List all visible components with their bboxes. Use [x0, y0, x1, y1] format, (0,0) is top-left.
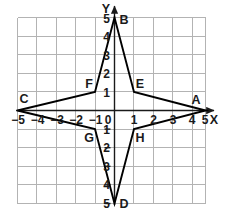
y-tick-neg1: 1 [103, 123, 110, 137]
point-label-A: A [191, 93, 200, 107]
y-tick-neg2: 2 [103, 141, 110, 155]
x-tick-neg1: −1 [89, 113, 103, 127]
x-tick-3: 3 [170, 113, 177, 127]
x-tick-2: 2 [150, 113, 157, 127]
y-tick-neg3: 3 [103, 160, 110, 174]
point-label-D: D [119, 197, 128, 211]
x-tick-neg3: −3 [50, 113, 64, 127]
point-label-H: H [135, 131, 144, 145]
x-tick-5: 5 [202, 113, 209, 127]
y-tick-2: 2 [103, 67, 110, 81]
point-label-B: B [119, 13, 128, 27]
vertex-labels: A B C D E F G H [19, 13, 200, 211]
coordinate-plane-svg: −5 −4 −3 −2 −1 0 1 2 3 4 5 5 4 3 2 1 1 2… [0, 0, 227, 216]
coordinate-plane-figure: −5 −4 −3 −2 −1 0 1 2 3 4 5 5 4 3 2 1 1 2… [0, 0, 227, 216]
point-label-C: C [19, 92, 28, 106]
y-tick-1: 1 [103, 86, 110, 100]
y-tick-neg5: 5 [103, 197, 110, 211]
y-axis-label: Y [102, 2, 111, 16]
x-tick-4: 4 [189, 113, 196, 127]
x-tick-neg4: −4 [31, 113, 45, 127]
x-axis-label: X [210, 113, 219, 127]
y-tick-neg4: 4 [103, 178, 110, 192]
y-tick-4: 4 [103, 30, 110, 44]
point-label-E: E [136, 77, 144, 91]
y-tick-3: 3 [103, 49, 110, 63]
point-label-G: G [84, 131, 94, 145]
point-label-F: F [85, 77, 93, 91]
x-tick-neg5: −5 [11, 113, 25, 127]
x-tick-1: 1 [131, 113, 138, 127]
y-tick-labels: 5 4 3 2 1 1 2 3 4 5 [103, 12, 110, 211]
x-tick-neg2: −2 [69, 113, 83, 127]
